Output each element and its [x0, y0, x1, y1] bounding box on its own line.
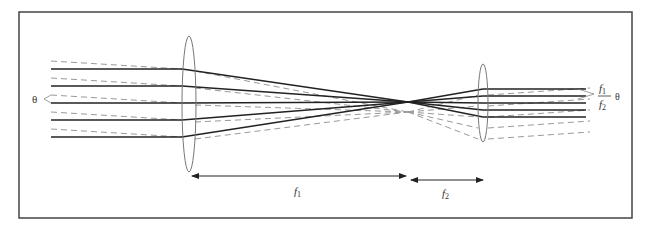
telescope-ray-diagram: θ f1 f2 θ f1 f2	[0, 0, 652, 228]
svg-text:f2: f2	[599, 98, 606, 112]
f2-label: f2	[442, 187, 449, 201]
output-angle-label: f1 f2 θ	[598, 82, 620, 112]
svg-text:θ: θ	[615, 91, 620, 102]
input-angle-marker	[44, 95, 51, 103]
solid-rays-output	[483, 89, 586, 117]
svg-text:f1: f1	[599, 82, 606, 96]
objective-lens	[182, 36, 196, 172]
dashed-rays-input	[51, 61, 182, 137]
input-angle-label: θ	[32, 93, 37, 105]
output-angle-marker	[578, 89, 594, 99]
solid-rays-input	[51, 69, 182, 137]
f1-label: f1	[294, 185, 301, 199]
